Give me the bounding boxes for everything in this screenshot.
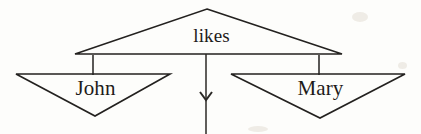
diagram-canvas [0, 0, 421, 134]
syntax-tree-figure: likes John Mary [0, 0, 421, 134]
node-label-mary: Mary [232, 78, 407, 99]
node-label-john: John [0, 78, 189, 99]
node-label-likes: likes [0, 26, 421, 45]
